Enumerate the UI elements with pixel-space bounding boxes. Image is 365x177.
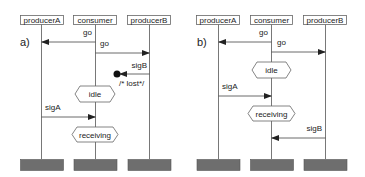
- message-label-go-a: go: [83, 28, 92, 37]
- diagram-label-a: a): [20, 36, 30, 48]
- message-label-sigA: sigA: [45, 103, 61, 112]
- end-bar-producerB: [128, 160, 171, 171]
- state-idle: idle: [252, 62, 291, 78]
- header-consumer-label: consumer: [254, 16, 289, 25]
- header-producerA-label: producerA: [200, 16, 238, 25]
- state-receiving-label: receiving: [79, 131, 111, 140]
- header-consumer: consumer: [74, 16, 117, 26]
- lost-message-dot-icon: [114, 71, 121, 78]
- header-producerB: producerB: [128, 16, 171, 26]
- diagram-a: producerA consumer producerB a) go go si…: [20, 16, 171, 171]
- header-consumer: consumer: [251, 16, 293, 26]
- header-consumer-label: consumer: [77, 16, 112, 25]
- lost-note: /* lost*/: [119, 79, 145, 88]
- header-producerB-label: producerB: [131, 16, 168, 25]
- header-producerB: producerB: [304, 16, 347, 26]
- end-bar-consumer: [74, 160, 117, 171]
- end-bar-producerB: [304, 160, 347, 171]
- header-producerB-label: producerB: [307, 16, 344, 25]
- message-label-go-b: go: [100, 39, 109, 48]
- diagram-b: producerA consumer producerB b) go go id…: [197, 16, 348, 171]
- state-idle-label: idle: [265, 66, 278, 75]
- header-producerA: producerA: [21, 16, 64, 26]
- message-label-sigB: sigB: [131, 61, 147, 70]
- state-idle: idle: [75, 86, 115, 102]
- message-label-sigA: sigA: [222, 82, 238, 91]
- header-producerA: producerA: [197, 16, 240, 26]
- end-bar-consumer: [251, 160, 294, 171]
- header-producerA-label: producerA: [24, 16, 62, 25]
- end-bar-producerA: [21, 160, 64, 171]
- message-label-go-a: go: [259, 28, 268, 37]
- diagram-label-b: b): [197, 36, 207, 48]
- state-receiving-label: receiving: [255, 110, 287, 119]
- state-receiving: receiving: [248, 106, 295, 121]
- state-receiving: receiving: [72, 127, 118, 142]
- message-label-sigB: sigB: [306, 124, 322, 133]
- state-idle-label: idle: [89, 90, 102, 99]
- end-bar-producerA: [197, 160, 240, 171]
- message-label-go-b: go: [277, 38, 286, 47]
